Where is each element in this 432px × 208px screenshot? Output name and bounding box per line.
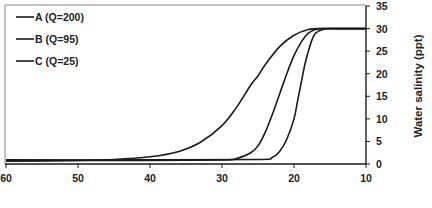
series-line-a (6, 29, 366, 162)
salinity-chart: 605040302010 05101520253035 Water salini… (0, 0, 432, 208)
x-tick-label: 50 (72, 172, 84, 184)
y-axis-tick-labels: 05101520253035 (376, 0, 388, 170)
y-axis-title: Water salinity (ppt) (412, 34, 424, 137)
legend-label-b: B (Q=95) (35, 33, 78, 45)
legend: A (Q=200) B (Q=95) C (Q=25) (16, 11, 84, 67)
x-axis-tick-labels: 605040302010 (0, 172, 372, 184)
y-tick-label: 10 (376, 113, 388, 125)
legend-item-c: C (Q=25) (16, 55, 78, 67)
x-tick-label: 20 (288, 172, 300, 184)
series-lines (6, 29, 366, 162)
series-line-c (6, 29, 366, 160)
legend-label-c: C (Q=25) (35, 55, 78, 67)
y-tick-label: 5 (376, 135, 382, 147)
y-tick-label: 20 (376, 68, 388, 80)
x-tick-label: 60 (0, 172, 12, 184)
legend-label-a: A (Q=200) (35, 11, 84, 23)
y-tick-label: 0 (376, 158, 382, 170)
x-tick-label: 40 (144, 172, 156, 184)
y-tick-label: 25 (376, 45, 388, 57)
legend-item-a: A (Q=200) (16, 11, 84, 23)
x-tick-label: 10 (360, 172, 372, 184)
y-tick-label: 30 (376, 23, 388, 35)
legend-item-b: B (Q=95) (16, 33, 78, 45)
y-tick-label: 15 (376, 90, 388, 102)
x-tick-label: 30 (216, 172, 228, 184)
series-line-b (6, 29, 366, 161)
y-tick-label: 35 (376, 0, 388, 12)
